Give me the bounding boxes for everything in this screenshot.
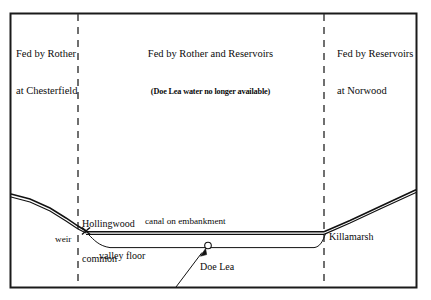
label-doe-lea: Doe Lea [200, 261, 234, 273]
zone-header-left-line1: Fed by Rother [16, 48, 78, 60]
zone-header-right: Fed by Reservoirs at Norwood [337, 23, 413, 122]
zone-header-right-line1: Fed by Reservoirs [337, 48, 413, 60]
label-canal-on-embankment: canal on embankment [145, 216, 226, 227]
doe-lea-arrowhead [200, 249, 206, 257]
label-weir: weir [55, 234, 71, 245]
zone-header-center-line1: Fed by Rother and Reservoirs [108, 48, 313, 60]
hillside-right [324, 190, 416, 232]
hillside-left-shadow [11, 197, 86, 233]
zone-header-center-subtitle: (Doe Lea water no longer available) [108, 87, 313, 97]
zone-header-left-line2: at Chesterfield [16, 85, 78, 97]
cross-section-diagram: Fed by Rother at Chesterfield Fed by Rot… [0, 0, 431, 300]
zone-header-left: Fed by Rother at Chesterfield [16, 23, 78, 122]
label-hollingwood-common: Hollingwood common [82, 194, 135, 288]
doe-lea-leader-line [176, 253, 202, 288]
label-hollingwood-line1: Hollingwood [82, 218, 135, 230]
zone-header-center: Fed by Rother and Reservoirs (Doe Lea wa… [108, 23, 313, 121]
zone-header-right-line2: at Norwood [337, 85, 413, 97]
label-killamarsh: Killamarsh [329, 231, 373, 243]
label-valley-floor: valley floor [99, 250, 145, 262]
hillside-right-shadow [324, 193, 416, 235]
doe-lea-marker [205, 242, 212, 249]
